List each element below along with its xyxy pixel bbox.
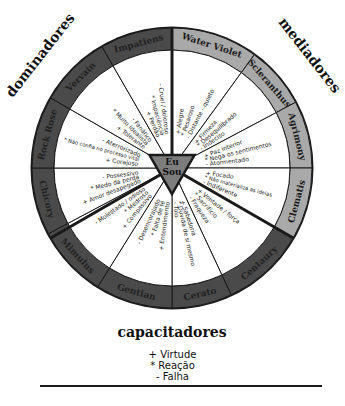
center-label-line2: Sou	[162, 167, 182, 177]
legend-virtue: + Virtude	[0, 349, 345, 360]
bottom-divider	[40, 385, 322, 387]
legend-fault: - Falha	[0, 371, 345, 382]
center-label-line1: Eu	[165, 157, 179, 167]
group-label-capacitadores: capacitadores	[117, 324, 226, 340]
group-label-mediadores: mediadores	[276, 14, 345, 96]
bach-flower-wheel: Water Violet+ Alegre* Pesaroso- Distante…	[0, 0, 345, 406]
legend-reaction: * Reação	[0, 360, 345, 371]
